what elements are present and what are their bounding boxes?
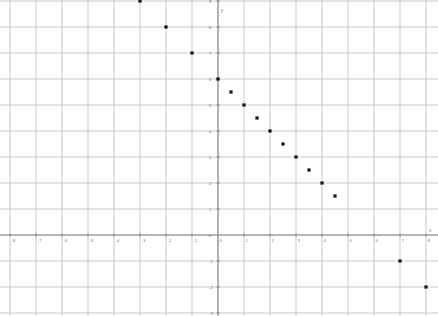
x-tick-label: 1 [246, 238, 249, 243]
y-axis-label: y [220, 8, 224, 13]
data-point [242, 103, 245, 106]
x-tick-label: -5 [90, 238, 94, 243]
x-tick-label: 4 [324, 238, 327, 243]
data-point [307, 168, 310, 171]
x-tick-label: -6 [64, 238, 68, 243]
data-point [333, 194, 336, 197]
data-point [164, 25, 167, 28]
scatter-plot-canvas: -8-7-6-5-4-3-2-1012345678-3-2-1012345678… [0, 0, 438, 316]
data-point [294, 155, 297, 158]
data-point [281, 142, 284, 145]
plot-svg: -8-7-6-5-4-3-2-1012345678-3-2-1012345678… [0, 0, 438, 316]
data-point [255, 116, 258, 119]
x-tick-label: 0 [220, 238, 223, 243]
data-point [320, 181, 323, 184]
x-tick-label: -1 [194, 238, 198, 243]
data-point [424, 285, 427, 288]
data-point [398, 259, 401, 262]
x-tick-label: -7 [38, 238, 42, 243]
x-tick-label: 6 [376, 238, 379, 243]
x-tick-label: 2 [272, 238, 275, 243]
data-point-layer [138, 0, 427, 289]
data-point [268, 129, 271, 132]
x-tick-label: -2 [168, 238, 172, 243]
data-point [190, 51, 193, 54]
x-tick-label: -8 [12, 238, 16, 243]
x-axis-label: x [428, 228, 432, 233]
y-tick-label: 9 [209, 0, 212, 4]
x-tick-label: -4 [116, 238, 120, 243]
data-point [229, 90, 232, 93]
tick-label-layer: -8-7-6-5-4-3-2-1012345678-3-2-1012345678… [12, 0, 431, 316]
x-tick-label: 8 [428, 238, 431, 243]
axis-layer [0, 0, 438, 316]
data-point [216, 77, 219, 80]
grid-layer [0, 0, 438, 316]
x-tick-label: 5 [350, 238, 353, 243]
x-tick-label: -3 [142, 238, 146, 243]
data-point [138, 0, 141, 3]
x-tick-label: 7 [402, 238, 405, 243]
x-tick-label: 3 [298, 238, 301, 243]
